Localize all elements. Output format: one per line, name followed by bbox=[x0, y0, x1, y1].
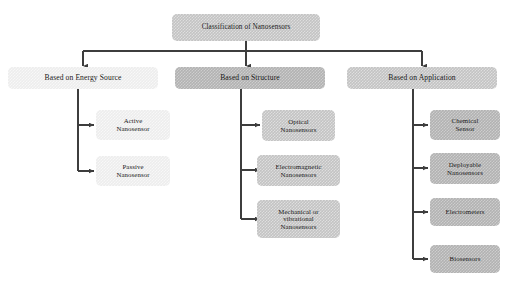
node-electrometers: Electrometers bbox=[430, 198, 500, 226]
node-label-structure: Based on Structure bbox=[177, 74, 323, 83]
node-label-deployable-nanosensors: DeployableNanosensors bbox=[432, 161, 498, 176]
node-label-biosensors: Biosensors bbox=[432, 255, 498, 263]
nanosensor-classification-diagram: Classification of NanosensorsBased on En… bbox=[0, 0, 508, 289]
node-deployable-nanosensors: DeployableNanosensors bbox=[430, 153, 500, 184]
node-label-optical-nanosensors: OpticalNanosensors bbox=[264, 118, 333, 133]
node-energy-source: Based on Energy Source bbox=[8, 67, 158, 89]
node-electromagnetic-nanosensors: ElectromagneticNanosensors bbox=[257, 155, 340, 186]
node-label-passive-nanosensor: PassiveNanosensor bbox=[98, 163, 168, 178]
node-chemical-sensor: ChemicalSensor bbox=[430, 110, 500, 140]
node-structure: Based on Structure bbox=[175, 67, 325, 89]
node-root: Classification of Nanosensors bbox=[172, 14, 320, 41]
node-label-energy-source: Based on Energy Source bbox=[10, 74, 156, 83]
node-biosensors: Biosensors bbox=[430, 245, 500, 273]
node-label-mechanical-vibrational-nanosensors: Mechanical orvibrationalNanosensors bbox=[259, 208, 338, 231]
node-mechanical-vibrational-nanosensors: Mechanical orvibrationalNanosensors bbox=[257, 200, 340, 238]
node-label-application: Based on Application bbox=[349, 74, 495, 83]
node-active-nanosensor: ActiveNanosensor bbox=[96, 110, 170, 140]
node-label-active-nanosensor: ActiveNanosensor bbox=[98, 117, 168, 132]
node-optical-nanosensors: OpticalNanosensors bbox=[262, 110, 335, 141]
node-label-chemical-sensor: ChemicalSensor bbox=[432, 117, 498, 132]
node-label-electrometers: Electrometers bbox=[432, 208, 498, 216]
node-passive-nanosensor: PassiveNanosensor bbox=[96, 156, 170, 186]
node-label-electromagnetic-nanosensors: ElectromagneticNanosensors bbox=[259, 163, 338, 178]
node-label-root: Classification of Nanosensors bbox=[174, 23, 318, 31]
node-application: Based on Application bbox=[347, 67, 497, 89]
